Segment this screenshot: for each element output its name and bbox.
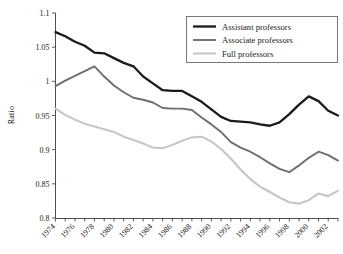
x-tick-label: 1998 [273,222,291,240]
x-tick-label: 1988 [176,222,194,240]
legend-label-2: Full professors [222,49,274,59]
x-tick-label: 2000 [293,222,311,240]
x-tick-label: 1980 [98,222,116,240]
line-chart: 0.80.850.90.9511.051.1 19741976197819801… [0,0,343,254]
y-tick-label: 1.1 [40,9,50,18]
series-line-2 [56,109,339,204]
x-tick-label: 1982 [117,222,135,240]
y-tick-label: 0.9 [40,146,50,155]
chart-legend: Assistant professorsAssociate professors… [187,17,338,63]
y-tick-group: 0.80.850.90.9511.051.1 [36,9,56,223]
series-line-1 [56,66,339,172]
x-tick-label: 1996 [254,222,272,240]
legend-label-1: Associate professors [222,35,294,45]
x-tick-label: 1984 [137,222,155,240]
chart-figure: 0.80.850.90.9511.051.1 19741976197819801… [0,0,343,254]
legend-label-0: Assistant professors [222,22,292,32]
x-tick-label: 1994 [234,222,252,240]
y-tick-label: 1.05 [36,43,50,52]
x-tick-label: 1976 [59,222,77,240]
x-tick-label: 1978 [78,222,96,240]
x-tick-label: 1992 [215,222,233,240]
x-tick-label: 1990 [195,222,213,240]
y-tick-label: 0.8 [40,214,50,223]
x-tick-group: 1974197619781980198219841986198819901992… [39,218,338,240]
x-tick-label: 1986 [156,222,174,240]
y-tick-label: 0.95 [36,112,50,121]
y-tick-label: 1 [46,77,50,86]
y-axis-label: Ratio [7,106,16,124]
x-tick-label: 1974 [39,222,57,240]
y-tick-label: 0.85 [36,180,50,189]
x-tick-label: 2002 [312,222,330,240]
